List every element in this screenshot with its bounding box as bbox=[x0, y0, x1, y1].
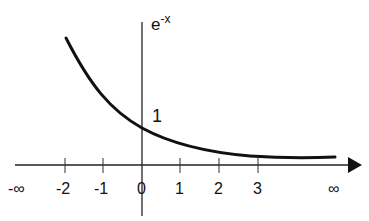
exp-decay-curve bbox=[66, 38, 335, 158]
x-tick-label: 2 bbox=[214, 180, 223, 197]
x-tick-label: 3 bbox=[253, 180, 262, 197]
chart-canvas: e-x 1 -∞ -2 -1 0 1 2 3 ∞ bbox=[0, 0, 369, 221]
x-tick-label: ∞ bbox=[328, 180, 339, 197]
y-intercept-label: 1 bbox=[152, 106, 162, 126]
x-axis-arrow-icon bbox=[348, 157, 362, 173]
x-tick-label: -∞ bbox=[8, 180, 25, 197]
x-tick-label: -1 bbox=[94, 180, 108, 197]
x-tick-label: 0 bbox=[137, 180, 146, 197]
x-tick-label: -2 bbox=[56, 180, 70, 197]
x-tick-label: 1 bbox=[175, 180, 184, 197]
function-label: e-x bbox=[151, 12, 170, 34]
exponential-decay-chart: e-x 1 -∞ -2 -1 0 1 2 3 ∞ bbox=[0, 0, 369, 221]
x-tick-labels: -∞ -2 -1 0 1 2 3 ∞ bbox=[8, 180, 339, 197]
